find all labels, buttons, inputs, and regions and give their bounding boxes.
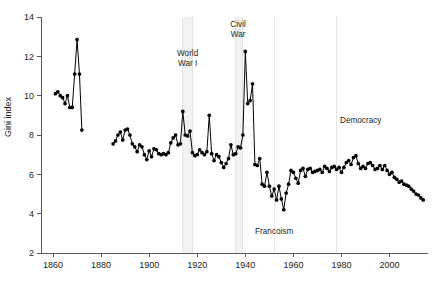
data-point-1917 [188, 129, 192, 133]
annotation-line: World [177, 49, 199, 58]
annotation-line: War [231, 30, 246, 39]
data-point-1952 [272, 187, 276, 191]
data-point-1964 [301, 167, 305, 171]
data-point-1888 [118, 130, 122, 134]
y-tick-label-6: 6 [29, 170, 34, 180]
data-point-1866 [66, 94, 70, 98]
data-point-1961 [294, 176, 298, 180]
data-point-1957 [284, 191, 288, 195]
data-point-1939 [241, 133, 245, 137]
data-point-1923 [203, 153, 207, 157]
y-tick-label-14: 14 [24, 12, 34, 22]
data-point-2008 [407, 184, 411, 188]
data-point-1899 [145, 158, 149, 162]
data-point-1998 [383, 164, 387, 168]
data-point-1942 [248, 99, 252, 103]
data-point-1967 [308, 167, 312, 171]
data-point-1925 [207, 113, 211, 117]
y-tick-label-12: 12 [24, 52, 34, 62]
x-tick-label-2000: 2000 [380, 260, 400, 270]
series-line-segment-0 [55, 40, 81, 130]
data-point-1979 [337, 166, 341, 170]
data-point-2001 [390, 171, 394, 175]
data-point-2005 [400, 179, 404, 183]
x-tick-label-1860: 1860 [43, 260, 63, 270]
data-point-1992 [368, 161, 372, 165]
data-point-1983 [347, 159, 351, 163]
data-point-1960 [292, 171, 296, 175]
data-point-1934 [229, 143, 233, 147]
data-point-1885 [111, 142, 115, 146]
data-point-1948 [263, 184, 267, 188]
data-point-1895 [135, 150, 139, 154]
annotation-line: Francoism [255, 227, 293, 236]
data-point-1914 [181, 110, 185, 114]
x-tick-label-1960: 1960 [283, 260, 303, 270]
x-tick-label-1900: 1900 [139, 260, 159, 270]
data-point-1949 [265, 171, 269, 175]
data-point-1945 [255, 164, 259, 168]
annotations-group: WorldWar ICivilWarFrancoismDemocracy [177, 20, 382, 236]
data-point-1909 [169, 141, 173, 145]
data-point-1936 [234, 152, 238, 156]
data-point-1931 [222, 166, 226, 170]
data-point-1920 [195, 153, 199, 157]
data-point-1950 [268, 184, 272, 188]
period-marker-lines-group [243, 17, 337, 253]
data-point-1977 [332, 165, 336, 169]
annotation-democracy: Democracy [340, 116, 382, 125]
data-point-1971 [318, 168, 322, 172]
data-point-1995 [376, 167, 380, 171]
data-point-1930 [219, 161, 223, 165]
x-tick-label-1920: 1920 [187, 260, 207, 270]
data-point-2003 [395, 177, 399, 181]
data-point-1940 [243, 50, 247, 54]
data-point-1929 [217, 155, 221, 159]
y-tick-label-8: 8 [29, 130, 34, 140]
data-point-1941 [246, 102, 250, 106]
data-point-1898 [143, 153, 147, 157]
data-point-1932 [224, 162, 228, 166]
data-point-1913 [179, 142, 183, 146]
data-point-1987 [356, 162, 360, 166]
data-point-1955 [280, 197, 284, 201]
x-tick-label-1980: 1980 [331, 260, 351, 270]
data-point-1921 [198, 148, 202, 152]
data-point-1916 [186, 134, 190, 138]
y-tick-label-2: 2 [29, 248, 34, 258]
x-tick-label-1940: 1940 [235, 260, 255, 270]
data-point-1893 [130, 142, 134, 146]
annotation-francoism: Francoism [255, 227, 293, 236]
data-point-1980 [340, 171, 344, 175]
data-point-1892 [128, 133, 132, 137]
y-tick-label-10: 10 [24, 91, 34, 101]
y-tick-label-4: 4 [29, 209, 34, 219]
data-point-2012 [417, 193, 421, 197]
annotation-line: Democracy [340, 116, 382, 125]
data-point-1889 [121, 138, 125, 142]
data-point-1887 [116, 133, 120, 137]
data-point-1869 [73, 72, 77, 76]
data-point-1938 [239, 146, 243, 150]
data-point-1894 [133, 145, 137, 149]
data-point-2010 [412, 189, 416, 193]
data-point-1986 [354, 154, 358, 158]
data-point-1999 [385, 169, 389, 173]
data-point-1956 [282, 208, 286, 212]
x-tick-label-1880: 1880 [91, 260, 111, 270]
data-point-1864 [61, 96, 65, 100]
data-point-1862 [56, 90, 60, 94]
data-point-1924 [205, 150, 209, 154]
axes-group: 2468101214186018801900192019401960198020… [3, 12, 428, 270]
data-point-1954 [277, 184, 281, 188]
data-point-1933 [227, 157, 231, 161]
y-axis-title-text: Gini index [3, 96, 13, 137]
data-point-1946 [258, 157, 262, 161]
gini-index-line-chart: 2468101214186018801900192019401960198020… [0, 0, 436, 285]
data-point-1900 [147, 149, 151, 153]
data-point-1886 [114, 139, 118, 143]
annotation-line: War I [178, 59, 197, 68]
data-point-1962 [296, 181, 300, 185]
annotation-civil-war: CivilWar [230, 20, 246, 39]
data-point-1943 [251, 82, 255, 86]
